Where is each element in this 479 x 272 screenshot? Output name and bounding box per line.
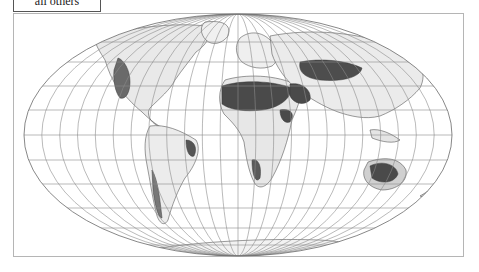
sea-islands — [370, 130, 400, 143]
north-america — [95, 25, 209, 130]
antarctica — [160, 239, 363, 256]
world-map — [0, 0, 479, 272]
land-masses — [95, 22, 430, 256]
